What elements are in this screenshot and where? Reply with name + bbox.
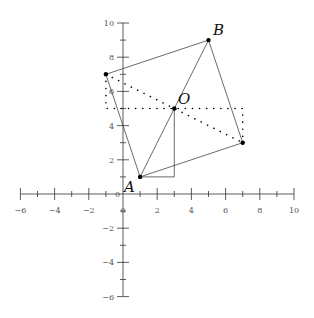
x-tick-label: −2 (83, 206, 95, 215)
y-tick-label: 2 (109, 156, 114, 165)
y-tick-label: −6 (102, 293, 114, 302)
point-Q (241, 141, 245, 145)
x-tick-label: 6 (223, 206, 228, 215)
y-tick-label: 4 (109, 122, 114, 131)
x-tick-label: 10 (289, 206, 299, 215)
point-B (206, 38, 210, 42)
label-A: A (122, 178, 135, 196)
y-tick-label: −2 (102, 224, 114, 233)
y-tick-label: 10 (104, 19, 114, 28)
origin-label: 0 (115, 190, 120, 199)
point-A (138, 175, 142, 179)
y-tick-label: −4 (102, 258, 114, 267)
axes: −6−4−2246810−6−4−224681000 (15, 19, 300, 302)
x-tick-label: −4 (49, 206, 61, 215)
label-O: O (178, 90, 190, 108)
x-tick-label: −6 (15, 206, 27, 215)
label-B: B (212, 21, 224, 39)
x-tick-label: 4 (189, 206, 194, 215)
point-P (104, 72, 108, 76)
x-tick-label: 8 (257, 206, 262, 215)
x-tick-label: 2 (155, 206, 160, 215)
point-O (172, 106, 176, 110)
coordinate-diagram: −6−4−2246810−6−4−224681000 A B O (0, 0, 314, 318)
origin-label: 0 (120, 206, 125, 215)
y-tick-label: 8 (109, 53, 114, 62)
